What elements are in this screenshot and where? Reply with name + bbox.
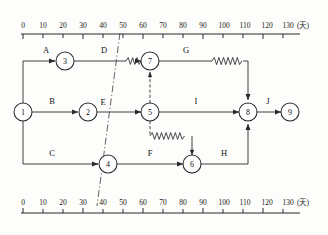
top-axis-tick-100: 100: [218, 21, 230, 30]
top-axis-ticks: [23, 34, 283, 39]
edge-H-path: [201, 126, 248, 164]
float-marker-dummy-5-6: [150, 133, 185, 140]
network-diagram-canvas: 0 10 20 30 40 50 60 70 80 90 100 110 120…: [0, 0, 328, 235]
node-8-label: 8: [246, 108, 250, 117]
node-5-label: 5: [148, 108, 152, 117]
node-9-label: 9: [288, 108, 292, 117]
bottom-axis-tick-0: 0: [21, 198, 25, 207]
bottom-axis-tick-110: 110: [240, 198, 251, 207]
node-2[interactable]: 2: [79, 103, 97, 121]
bottom-axis-tick-80: 80: [179, 198, 187, 207]
edge-C-path: [23, 121, 98, 164]
top-axis-unit-label: (天): [297, 21, 309, 30]
activity-label-C: C: [49, 148, 55, 158]
node-3[interactable]: 3: [56, 52, 74, 70]
bottom-axis-tick-100: 100: [218, 198, 230, 207]
top-axis-tick-10: 10: [39, 21, 47, 30]
node-2-label: 2: [86, 108, 90, 117]
bottom-axis-tick-30: 30: [79, 198, 87, 207]
activity-label-F: F: [148, 148, 153, 158]
node-5[interactable]: 5: [141, 103, 159, 121]
bottom-axis-tick-90: 90: [199, 198, 207, 207]
node-1[interactable]: 1: [14, 103, 32, 121]
node-6[interactable]: 6: [183, 155, 201, 173]
top-axis-tick-80: 80: [179, 21, 187, 30]
top-axis-tick-90: 90: [199, 21, 207, 30]
node-4[interactable]: 4: [99, 155, 117, 173]
top-axis-tick-20: 20: [59, 21, 67, 30]
bottom-axis-tick-130: 130: [282, 198, 294, 207]
float-marker-G: [212, 57, 242, 64]
node-9[interactable]: 9: [281, 103, 299, 121]
top-axis-tick-30: 30: [79, 21, 87, 30]
bottom-axis-tick-20: 20: [59, 198, 67, 207]
node-3-label: 3: [63, 57, 67, 66]
network-nodes: 1 2 3 4 5 6 7: [14, 52, 299, 173]
activity-label-E: E: [100, 97, 105, 107]
activity-label-D: D: [101, 45, 107, 55]
top-axis-tick-60: 60: [139, 21, 147, 30]
bottom-axis-tick-50: 50: [119, 198, 127, 207]
activity-label-G: G: [183, 45, 189, 55]
bottom-axis-tick-70: 70: [159, 198, 167, 207]
bottom-axis-tick-10: 10: [39, 198, 47, 207]
top-axis-tick-50: 50: [119, 21, 127, 30]
top-axis-tick-40: 40: [99, 21, 107, 30]
schedule-cut-line: [97, 33, 120, 206]
activity-label-A: A: [43, 45, 50, 55]
top-axis-tick-70: 70: [159, 21, 167, 30]
node-7[interactable]: 7: [141, 52, 159, 70]
top-axis-tick-0: 0: [21, 21, 25, 30]
top-time-axis: 0 10 20 30 40 50 60 70 80 90 100 110 120…: [21, 21, 309, 39]
node-1-label: 1: [21, 108, 25, 117]
bottom-axis-tick-40: 40: [99, 198, 107, 207]
bottom-axis-ticks: [23, 208, 283, 213]
bottom-time-axis: 0 10 20 30 40 50 60 70 80 90 100 110 120…: [21, 198, 309, 213]
activity-label-H: H: [221, 148, 227, 158]
cut-line-path: [97, 33, 120, 206]
node-8[interactable]: 8: [239, 103, 257, 121]
activity-label-B: B: [49, 96, 55, 106]
node-4-label: 4: [106, 160, 110, 169]
activity-label-I: I: [195, 96, 198, 106]
network-diagram-svg: 0 10 20 30 40 50 60 70 80 90 100 110 120…: [0, 0, 328, 235]
edge-G-elbow: [243, 61, 248, 98]
top-axis-tick-130: 130: [282, 21, 294, 30]
bottom-axis-tick-120: 120: [261, 198, 273, 207]
activity-label-J: J: [266, 96, 270, 106]
node-7-label: 7: [148, 57, 152, 66]
bottom-axis-tick-60: 60: [139, 198, 147, 207]
node-6-label: 6: [190, 160, 194, 169]
top-axis-tick-120: 120: [261, 21, 273, 30]
bottom-axis-unit-label: (天): [297, 198, 309, 207]
top-axis-tick-110: 110: [240, 21, 251, 30]
